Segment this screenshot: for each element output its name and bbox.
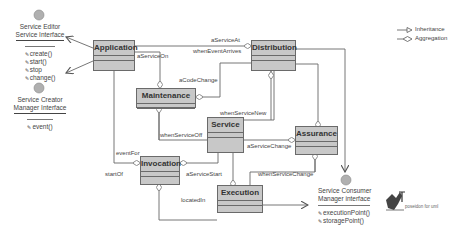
operation: stop [25, 66, 56, 74]
label-whenServiceNew: whenServiceNew [220, 110, 266, 117]
class-name: Execution [218, 186, 262, 201]
legend-inheritance: Inheritance [397, 25, 447, 34]
operation: event() [27, 123, 52, 131]
poseidon-logo-icon [386, 192, 405, 210]
label-locatedIn: locatedIn [181, 197, 205, 204]
interface-service-creator[interactable]: Service Creator Manager Interface event(… [12, 96, 68, 131]
aggregation-diamond-icon [397, 36, 413, 42]
class-execution[interactable]: Execution [217, 185, 263, 213]
label-aCodeChange: aCodeChange [179, 77, 218, 84]
label-aServiceOn: aServiceOn [137, 53, 168, 60]
class-attributes [137, 104, 195, 109]
class-name: Application [94, 41, 134, 56]
class-name: Maintenance [137, 89, 195, 104]
class-attributes [252, 56, 295, 61]
class-invocation[interactable]: Invocation [140, 156, 180, 185]
operation: storagePoint() [318, 217, 370, 225]
inheritance-arrow-icon [397, 27, 413, 33]
interface-operations: executionPoint() storagePoint() [318, 205, 370, 225]
operation: start() [25, 58, 56, 66]
interface-operations: create() start() stop change() [25, 46, 56, 82]
legend-label: Aggregation [415, 34, 447, 43]
interface-name-line1: Service Editor [12, 23, 68, 31]
interface-ball-creator [34, 83, 44, 93]
class-attributes [94, 56, 134, 61]
class-name: Service [208, 118, 243, 133]
interface-ball-editor [34, 10, 44, 20]
interface-name-line2: Manager Interface [14, 104, 67, 114]
class-service[interactable]: Service [207, 117, 244, 153]
operation: change() [25, 74, 56, 82]
interface-name-line1: Service Consumer [318, 187, 378, 195]
class-name: Distribution [252, 41, 295, 56]
class-name: Invocation [141, 157, 179, 172]
interface-name-line2: Manager interface [318, 195, 378, 203]
class-application[interactable]: Application [93, 40, 135, 71]
label-aServiceStart: aServiceStart [186, 171, 222, 178]
interface-name-line2: Service Interface [16, 31, 65, 41]
operation: executionPoint() [318, 209, 370, 217]
legend-aggregation: Aggregation [397, 34, 447, 43]
label-whenEventArrives: whenEventArrives [193, 48, 241, 55]
class-attributes [208, 133, 243, 138]
interface-service-consumer[interactable]: Service Consumer Manager interface execu… [318, 187, 378, 225]
class-distribution[interactable]: Distribution [251, 40, 296, 71]
label-whenServiceOff: whenServiceOff [160, 132, 202, 139]
label-startOf: startOf [105, 171, 123, 178]
class-name: Assurance [296, 127, 337, 142]
interface-ball-consumer [341, 175, 351, 185]
label-whenServiceChange: whenServiceChange [258, 171, 313, 178]
legend-label: Inheritance [415, 25, 445, 34]
interface-name-line1: Service Creator [12, 96, 68, 104]
class-attributes [296, 142, 337, 147]
label-aServiceChange: aServiceChange [247, 143, 291, 150]
legend: Inheritance Aggregation [397, 25, 447, 43]
class-assurance[interactable]: Assurance [295, 126, 338, 155]
interface-service-editor[interactable]: Service Editor Service Interface create(… [12, 23, 68, 82]
label-eventFor: eventFor [116, 150, 140, 157]
operation: create() [25, 50, 56, 58]
class-attributes [141, 172, 179, 177]
logo-caption: poseidon for uml [405, 204, 438, 209]
class-attributes [218, 201, 262, 206]
label-aServiceAt: aServiceAt [211, 37, 240, 44]
class-maintenance[interactable]: Maintenance [136, 88, 196, 108]
interface-operations: event() [27, 119, 52, 131]
